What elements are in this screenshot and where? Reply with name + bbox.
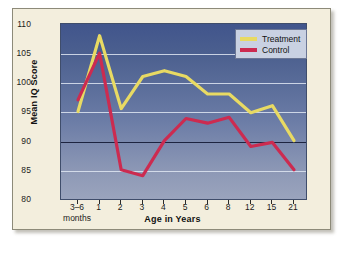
y-axis-title: Mean IQ Score	[29, 47, 39, 137]
legend-label-control: Control	[262, 45, 289, 55]
x-axis-title: Age in Years	[13, 214, 332, 224]
chart-screenshot: 110 105 100 95 90 85 80 Mean IQ Score T	[0, 0, 351, 254]
y-tick-90: 90	[0, 137, 31, 145]
legend-label-treatment: Treatment	[262, 34, 300, 44]
y-tick-110: 110	[0, 20, 31, 28]
y-tick-85: 85	[0, 166, 31, 174]
legend-swatch-control	[240, 48, 257, 52]
y-tick-105: 105	[0, 49, 31, 57]
x-tick-label-10: 21	[276, 203, 310, 212]
y-tick-95: 95	[0, 107, 31, 115]
y-tick-80: 80	[0, 195, 31, 203]
y-tick-100: 100	[0, 78, 31, 86]
chart-legend: Treatment Control	[235, 29, 307, 59]
legend-item-treatment: Treatment	[240, 33, 300, 44]
legend-item-control: Control	[240, 44, 300, 55]
legend-swatch-treatment	[240, 37, 257, 41]
chart-card: 110 105 100 95 90 85 80 Mean IQ Score T	[12, 8, 331, 230]
